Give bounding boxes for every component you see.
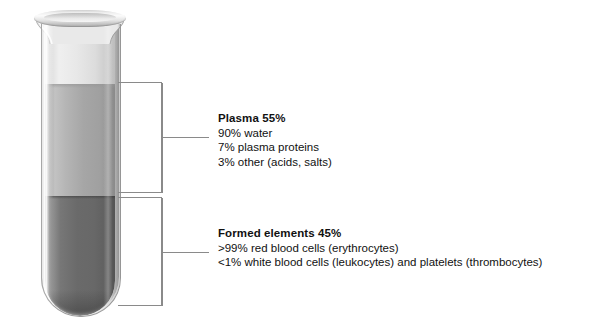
blood-composition-diagram: Plasma 55% 90% water 7% plasma proteins … <box>0 0 590 335</box>
bracket-plasma <box>118 83 209 193</box>
bracket-formed-elements <box>118 198 209 306</box>
callout-brackets <box>0 0 590 335</box>
